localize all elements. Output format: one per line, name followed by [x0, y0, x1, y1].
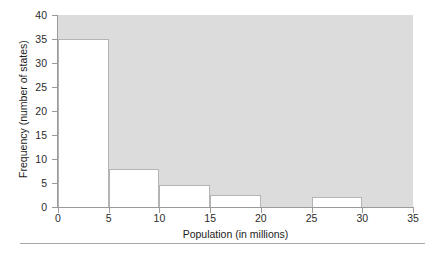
x-tick-label: 15 — [195, 213, 225, 224]
y-tick-mark — [52, 87, 57, 88]
x-axis-line — [57, 207, 414, 208]
y-tick-mark — [52, 183, 57, 184]
histogram-bar — [58, 39, 109, 207]
x-axis-label: Population (in millions) — [58, 228, 413, 240]
histogram-figure: 0510152025303540 05101520253035 Populati… — [0, 0, 434, 254]
y-tick-mark — [52, 159, 57, 160]
y-tick-mark — [52, 111, 57, 112]
bottom-divider — [20, 243, 425, 244]
x-tick-label: 35 — [398, 213, 428, 224]
histogram-bar — [312, 197, 363, 207]
histogram-bar — [210, 195, 261, 207]
x-tick-label: 25 — [297, 213, 327, 224]
x-tick-label: 10 — [144, 213, 174, 224]
x-tick-label: 30 — [347, 213, 377, 224]
x-tick-label: 5 — [94, 213, 124, 224]
histogram-bar — [109, 169, 160, 207]
y-tick-mark — [52, 39, 57, 40]
y-tick-mark — [52, 135, 57, 136]
x-tick-label: 0 — [43, 213, 73, 224]
x-tick-label: 20 — [246, 213, 276, 224]
y-tick-mark — [52, 15, 57, 16]
y-tick-mark — [52, 63, 57, 64]
y-axis-label: Frequency (number of states) — [17, 9, 29, 209]
y-tick-mark — [52, 207, 57, 208]
histogram-bar — [159, 185, 210, 207]
